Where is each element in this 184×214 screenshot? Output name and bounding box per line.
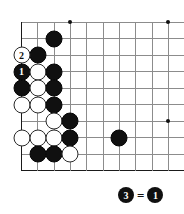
board-line-vertical [135, 22, 136, 171]
stone-white [62, 146, 79, 163]
stone-black [62, 129, 79, 146]
star-point [166, 119, 170, 123]
stone-white [46, 129, 63, 146]
stone-white [29, 63, 46, 80]
star-point [166, 20, 170, 24]
legend-stone-target: 1 [147, 187, 163, 203]
star-point [68, 20, 72, 24]
stone-black [46, 146, 63, 163]
stone-white [29, 129, 46, 146]
numbered-stone-black: 1 [13, 63, 30, 80]
numbered-stone-white: 2 [13, 47, 30, 64]
stone-white [13, 129, 30, 146]
stone-black [62, 113, 79, 130]
board-line-vertical [168, 22, 169, 171]
legend-stone-move: 3 [118, 187, 134, 203]
stone-black [29, 146, 46, 163]
stone-white [29, 96, 46, 113]
stone-black [111, 129, 128, 146]
stone-white [13, 96, 30, 113]
stone-black [29, 47, 46, 64]
stone-black [46, 63, 63, 80]
stone-black [46, 80, 63, 97]
stone-white [46, 113, 63, 130]
move-legend: 3 = 1 [118, 184, 180, 206]
stone-black [46, 96, 63, 113]
go-diagram-screenshot: 21 3 = 1 [0, 0, 184, 214]
stone-black [13, 80, 30, 97]
board-line-vertical [103, 22, 104, 171]
board-line-vertical [86, 22, 87, 171]
board-line-vertical [152, 22, 153, 171]
legend-equals-sign: = [137, 189, 144, 202]
board-line-vertical [119, 22, 120, 171]
stone-black [46, 30, 63, 47]
go-board: 21 [0, 0, 184, 178]
stone-white [29, 80, 46, 97]
